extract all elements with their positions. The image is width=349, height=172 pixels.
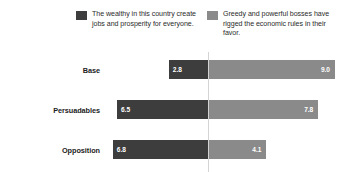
- legend-label-positive: Greedy and powerful bosses have rigged t…: [223, 10, 343, 39]
- legend-label-negative: The wealthy in this country create jobs …: [92, 10, 198, 29]
- bar-negative-persuadables[interactable]: 6.5: [117, 100, 208, 119]
- bar-positive-base[interactable]: 9.0: [209, 60, 335, 79]
- legend-item-positive: Greedy and powerful bosses have rigged t…: [207, 10, 343, 39]
- bar-value-negative-opposition: 6.8: [117, 146, 126, 153]
- legend-item-negative: The wealthy in this country create jobs …: [76, 10, 198, 29]
- bar-value-positive-opposition: 4.1: [252, 146, 261, 153]
- bar-positive-persuadables[interactable]: 7.8: [209, 100, 318, 119]
- chart-row: Opposition6.84.1: [0, 140, 349, 159]
- chart-row-label-base: Base: [0, 65, 100, 74]
- bar-value-positive-base: 9.0: [321, 66, 330, 73]
- bar-value-negative-base: 2.8: [173, 66, 182, 73]
- chart-row: Persuadables6.57.8: [0, 100, 349, 119]
- bar-positive-opposition[interactable]: 4.1: [209, 140, 266, 159]
- chart-row-label-persuadables: Persuadables: [0, 105, 100, 114]
- legend-swatch-negative-icon: [76, 11, 87, 20]
- bar-negative-base[interactable]: 2.8: [169, 60, 208, 79]
- bar-value-positive-persuadables: 7.8: [304, 106, 313, 113]
- chart-row-label-opposition: Opposition: [0, 145, 100, 154]
- chart-legend: The wealthy in this country create jobs …: [0, 0, 349, 52]
- bar-value-negative-persuadables: 6.5: [121, 106, 130, 113]
- chart-row: Base2.89.0: [0, 60, 349, 79]
- chart-plot-area: Base2.89.0Persuadables6.57.8Opposition6.…: [0, 52, 349, 172]
- legend-swatch-positive-icon: [207, 11, 218, 20]
- bar-negative-opposition[interactable]: 6.8: [113, 140, 208, 159]
